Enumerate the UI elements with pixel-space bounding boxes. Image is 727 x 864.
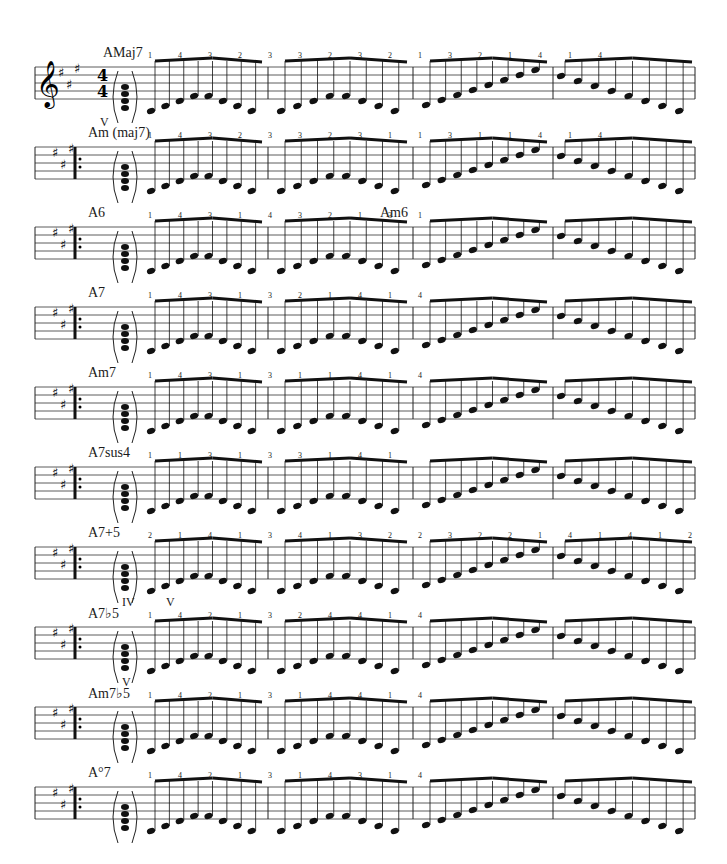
fingering-number: 3: [358, 51, 362, 60]
fingering-number: 1: [178, 451, 182, 460]
svg-text:♯: ♯: [60, 717, 66, 732]
fingering-number: 4: [418, 771, 422, 780]
fingering-number: 2: [388, 51, 392, 60]
svg-text:♯: ♯: [68, 781, 74, 796]
fingering-number: 3: [268, 611, 272, 620]
fingering-number: 3: [268, 451, 272, 460]
fingering-number: 3: [298, 211, 302, 220]
fingering-number: 1: [238, 611, 242, 620]
fingering-number: 1: [568, 131, 572, 140]
fingering-number: 1: [298, 771, 302, 780]
fingering-number: 3: [208, 131, 212, 140]
svg-text:♯: ♯: [68, 301, 74, 316]
fingering-number: 4: [358, 691, 362, 700]
fingering-number: 4: [268, 211, 272, 220]
chord-label: A6: [88, 205, 105, 221]
fingering-number: 1: [388, 771, 392, 780]
svg-text:♯: ♯: [58, 65, 64, 80]
svg-text:♯: ♯: [68, 701, 74, 716]
fingering-number: 4: [178, 291, 182, 300]
svg-text:♯: ♯: [68, 141, 74, 156]
fingering-number: 3: [298, 51, 302, 60]
fingering-number: 3: [298, 451, 302, 460]
fingering-number: 2: [328, 211, 332, 220]
fingering-number: 4: [358, 611, 362, 620]
fingering-number: 4: [178, 611, 182, 620]
chord-label: Am7: [88, 365, 116, 381]
fingering-number: 4: [598, 51, 602, 60]
fingering-number: 4: [328, 691, 332, 700]
staff-system: 𝄞♯♯♯44AMaj71432332321321414V: [0, 45, 727, 131]
staff-system: ♯♯♯Am (maj7)1432332311311414: [0, 125, 727, 211]
fingering-number: 3: [268, 291, 272, 300]
fingering-number: 4: [538, 131, 542, 140]
svg-text:♯: ♯: [66, 77, 72, 92]
fingering-number: 1: [388, 131, 392, 140]
fingering-number: 3: [358, 771, 362, 780]
fingering-number: 4: [208, 531, 212, 540]
chord-label: Am (maj7): [88, 125, 150, 141]
fingering-number: 2: [238, 131, 242, 140]
svg-text:♯: ♯: [52, 145, 58, 160]
svg-text:♯: ♯: [68, 381, 74, 396]
fingering-number: 3: [448, 531, 452, 540]
svg-text:♯: ♯: [52, 385, 58, 400]
fingering-number: 1: [238, 691, 242, 700]
fingering-number: 4: [178, 51, 182, 60]
fingering-number: 1: [178, 531, 182, 540]
fingering-number: 3: [208, 211, 212, 220]
fingering-number: 1: [418, 131, 422, 140]
fingering-number: 4: [418, 691, 422, 700]
svg-text:♯: ♯: [60, 397, 66, 412]
fingering-number: 4: [178, 771, 182, 780]
fingering-number: 1: [358, 211, 362, 220]
fingering-number: 1: [538, 531, 542, 540]
staff-system: ♯♯♯Am71431311414: [0, 365, 727, 451]
staff-lines: ♯♯♯: [0, 205, 727, 291]
fingering-number: 1: [148, 771, 152, 780]
fingering-number: 2: [238, 51, 242, 60]
svg-text:♯: ♯: [52, 225, 58, 240]
fingering-number: 3: [268, 691, 272, 700]
svg-text:♯: ♯: [74, 61, 80, 76]
fingering-number: 4: [178, 371, 182, 380]
svg-text:♯: ♯: [60, 237, 66, 252]
fingering-number: 1: [418, 51, 422, 60]
fingering-number: 4: [178, 691, 182, 700]
fingering-number: 2: [478, 51, 482, 60]
fingering-number: 1: [298, 371, 302, 380]
fingering-number: 2: [298, 291, 302, 300]
fingering-number: 1: [148, 131, 152, 140]
fingering-number: 3: [208, 371, 212, 380]
staff-system: ♯♯♯A7♭51421324414V: [0, 605, 727, 691]
svg-text:♯: ♯: [60, 477, 66, 492]
fingering-number: 1: [508, 131, 512, 140]
fingering-number: 3: [268, 771, 272, 780]
fingering-number: 4: [418, 611, 422, 620]
fingering-number: 4: [358, 451, 362, 460]
chord-label: A°7: [88, 765, 111, 781]
svg-text:♯: ♯: [60, 637, 66, 652]
svg-text:♯: ♯: [60, 317, 66, 332]
fingering-number: 1: [148, 691, 152, 700]
fingering-number: 1: [598, 531, 602, 540]
svg-text:♯: ♯: [52, 545, 58, 560]
fingering-number: 1: [238, 371, 242, 380]
fingering-number: 1: [148, 211, 152, 220]
fingering-number: 1: [388, 691, 392, 700]
fingering-number: 2: [328, 131, 332, 140]
svg-text:♯: ♯: [52, 705, 58, 720]
fingering-number: 4: [328, 771, 332, 780]
fingering-number: 2: [298, 611, 302, 620]
fingering-number: 2: [478, 531, 482, 540]
fingering-number: 4: [178, 131, 182, 140]
fingering-number: 1: [388, 611, 392, 620]
fingering-number: 4: [628, 531, 632, 540]
fingering-number: 3: [208, 291, 212, 300]
staff-lines: ♯♯♯: [0, 285, 727, 371]
fingering-number: 1: [238, 451, 242, 460]
svg-text:4: 4: [97, 82, 108, 101]
fingering-number: 2: [208, 771, 212, 780]
fingering-number: 4: [538, 51, 542, 60]
fingering-number: 2: [688, 531, 692, 540]
